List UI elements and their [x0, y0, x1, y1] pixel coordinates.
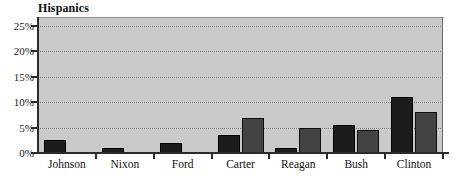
plot-area — [38, 18, 443, 153]
x-tick-label-nixon: Nixon — [110, 158, 139, 170]
y-tick-label: 15% — [14, 71, 34, 83]
chart-figure: Hispanics 0%5%10%15%20%25% JohnsonNixonF… — [0, 0, 461, 179]
bar-clinton-series-dark — [391, 97, 413, 153]
x-tick-label-reagan: Reagan — [281, 158, 315, 170]
bar-clinton-series-gray — [415, 112, 437, 153]
bar-reagan-series-gray — [299, 128, 321, 153]
x-tick-label-clinton: Clinton — [397, 158, 432, 170]
x-tick-label-bush: Bush — [344, 158, 368, 170]
x-tick-label-johnson: Johnson — [48, 158, 86, 170]
gridline-15% — [38, 77, 443, 78]
gridline-10% — [38, 102, 443, 103]
y-tick-label: 5% — [19, 122, 34, 134]
x-tick-mark — [268, 153, 270, 159]
x-tick-mark — [153, 153, 155, 159]
y-axis-line — [37, 17, 39, 154]
x-tick-mark — [384, 153, 386, 159]
bar-bush-series-dark — [333, 125, 355, 153]
y-tick-label: 10% — [14, 96, 34, 108]
bar-carter-series-dark — [218, 135, 240, 153]
x-tick-mark-end — [442, 153, 444, 159]
x-tick-mark — [95, 153, 97, 159]
chart-title: Hispanics — [38, 1, 89, 16]
x-tick-label-carter: Carter — [226, 158, 255, 170]
gridline-5% — [38, 128, 443, 129]
bar-carter-series-gray — [242, 118, 264, 153]
x-tick-label-ford: Ford — [172, 158, 194, 170]
y-tick-label: 20% — [14, 45, 34, 57]
gridline-25% — [38, 26, 443, 27]
gridline-20% — [38, 51, 443, 52]
bar-bush-series-gray — [357, 130, 379, 153]
x-tick-mark — [326, 153, 328, 159]
y-tick-label: 0% — [19, 147, 34, 159]
y-tick-label: 25% — [14, 20, 34, 32]
x-tick-mark — [211, 153, 213, 159]
x-axis-line — [37, 152, 449, 154]
